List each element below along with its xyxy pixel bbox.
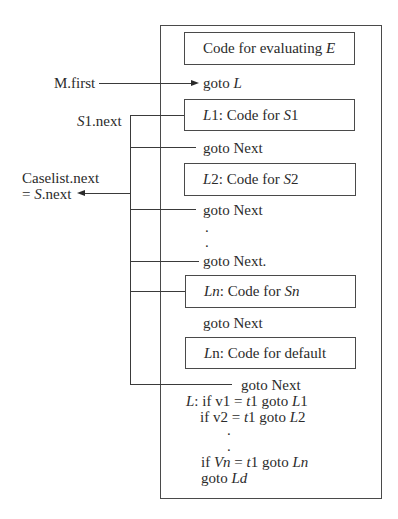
box-code-s2: L2: Code for S2	[184, 163, 356, 196]
box-text: Ln: Code for Sn	[204, 283, 299, 299]
connector-goto-next-1	[130, 147, 196, 148]
ellipsis-dot: .	[205, 234, 209, 250]
goto-next-1-text: goto Next	[203, 140, 263, 156]
test-line-v1: L: if v1 = t1 goto L1	[186, 393, 308, 409]
label-s1-next: S1.next	[77, 113, 122, 129]
connector-s1	[130, 115, 184, 116]
ellipsis-dot: .	[227, 422, 231, 438]
connector-goto-next-2	[130, 209, 196, 210]
box-code-sn: Ln: Code for Sn	[185, 275, 356, 308]
arrow-left-icon	[77, 190, 85, 196]
box-code-s1: L1: Code for S1	[184, 99, 355, 131]
box-text: Code for evaluating E	[203, 40, 335, 56]
caselist-arrow-line	[84, 193, 130, 194]
test-line-vn: if Vn = t1 goto Ln	[201, 454, 308, 470]
label-caselist-next: Caselist.next	[22, 170, 99, 186]
connector-goto-next-5	[130, 384, 232, 385]
box-code-default: Ln: Code for default	[185, 337, 356, 369]
connector-sn	[130, 291, 185, 292]
goto-l-text: goto L	[203, 75, 242, 91]
outer-code-box	[160, 25, 382, 499]
box-code-evaluate-e: Code for evaluating E	[184, 32, 355, 65]
bracket-vertical-line	[130, 115, 131, 385]
box-text: L2: Code for S2	[203, 171, 298, 187]
goto-next-4-text: goto Next	[203, 315, 263, 331]
ellipsis-dot: .	[205, 219, 209, 235]
connector-goto-next-3	[130, 261, 199, 262]
box-text: L1: Code for S1	[203, 107, 298, 123]
box-text: Ln: Code for default	[204, 345, 326, 361]
arrow-right-icon	[191, 80, 199, 86]
goto-next-3-text: goto Next.	[203, 253, 266, 269]
test-line-v2: if v2 = t1 goto L2	[200, 409, 306, 425]
m-first-arrow-line	[99, 83, 191, 84]
ellipsis-dot: .	[227, 438, 231, 454]
label-m-first: M.first	[54, 75, 95, 91]
goto-next-5-text: goto Next	[241, 377, 301, 393]
label-s-next: = S.next	[22, 186, 71, 202]
goto-next-2-text: goto Next	[203, 202, 263, 218]
goto-ld-line: goto Ld	[201, 470, 247, 486]
